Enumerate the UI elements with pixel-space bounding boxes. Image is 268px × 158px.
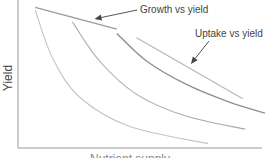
series-line-curve-1 [35, 10, 208, 143]
x-axis-label: Nutrient supply [90, 152, 170, 158]
growth-annotation-arrow [101, 10, 137, 18]
uptake-annotation-arrow [195, 41, 209, 58]
uptake-annotation-label: Uptake vs yield [195, 28, 263, 39]
uptake-arrowhead-icon [191, 57, 198, 64]
chart: Yield Nutrient supply Growth vs yield Up… [0, 0, 268, 158]
growth-annotation-label: Growth vs yield [140, 4, 208, 15]
annotation-layer: Growth vs yield Uptake vs yield [95, 4, 263, 64]
series-line-curve-3 [117, 33, 265, 113]
y-axis-label: Yield [1, 65, 15, 91]
growth-arrowhead-icon [95, 15, 102, 21]
series-line-growth-vs-yield [35, 7, 117, 29]
series-line-uptake-vs-yield [137, 38, 243, 99]
